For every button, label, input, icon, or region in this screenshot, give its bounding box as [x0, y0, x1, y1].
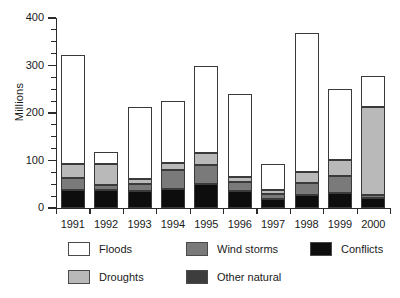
x-tick	[89, 208, 90, 214]
stacked-bar-chart: Millions 0100200300400 19911992199319941…	[0, 0, 400, 298]
y-tick-label-400: 400	[0, 12, 44, 23]
bar-1992	[94, 152, 118, 208]
legend-item-other-natural[interactable]: Other natural	[186, 270, 281, 284]
legend-swatch-other-natural	[186, 270, 208, 284]
x-tick-label-1991: 1991	[56, 218, 89, 230]
bar-1995	[194, 66, 218, 209]
x-tick-label-1996: 1996	[223, 218, 256, 230]
bar-segment-1992-droughts	[94, 164, 118, 185]
x-tick-label-1995: 1995	[190, 218, 223, 230]
x-tick-label-1993: 1993	[123, 218, 156, 230]
x-tick	[56, 208, 57, 214]
bar-segment-1993-wind-storms	[128, 184, 152, 191]
y-minor-tick	[51, 101, 56, 102]
x-tick	[256, 208, 257, 214]
y-minor-tick	[51, 89, 56, 90]
bar-segment-1995-wind-storms	[194, 165, 218, 184]
y-minor-tick	[51, 53, 56, 54]
bar-segment-1992-floods	[94, 152, 118, 164]
bar-segment-1994-wind-storms	[161, 170, 185, 189]
legend-swatch-wind-storms	[186, 242, 208, 256]
bar-1993	[128, 107, 152, 208]
bar-segment-1998-conflicts	[295, 195, 319, 208]
y-minor-tick	[51, 184, 56, 185]
y-tick-400	[48, 17, 56, 18]
bar-segment-1999-droughts	[328, 160, 352, 177]
legend-swatch-conflicts	[310, 242, 332, 256]
legend-item-droughts[interactable]: Droughts	[68, 270, 144, 284]
y-minor-tick	[51, 148, 56, 149]
y-tick-300	[48, 65, 56, 66]
legend-label: Floods	[99, 243, 132, 255]
bar-segment-1997-floods	[261, 164, 285, 190]
bar-segment-1991-floods	[61, 55, 85, 164]
bar-segment-1999-floods	[328, 89, 352, 159]
bar-segment-2000-floods	[361, 76, 385, 107]
bar-segment-1993-conflicts	[128, 191, 152, 208]
x-tick	[156, 208, 157, 214]
x-tick	[223, 208, 224, 214]
bar-segment-1994-droughts	[161, 163, 185, 170]
bar-segment-2000-droughts	[361, 107, 385, 195]
y-tick-label-0: 0	[0, 202, 44, 213]
legend-label: Wind storms	[217, 243, 278, 255]
legend-item-floods[interactable]: Floods	[68, 242, 132, 256]
y-minor-tick	[51, 172, 56, 173]
x-tick-label-2000: 2000	[357, 218, 390, 230]
x-tick	[290, 208, 291, 214]
x-tick-label-1994: 1994	[156, 218, 189, 230]
bar-1997	[261, 164, 285, 208]
legend-item-conflicts[interactable]: Conflicts	[310, 242, 383, 256]
bar-1996	[228, 94, 252, 208]
bar-segment-1998-floods	[295, 33, 319, 172]
bar-segment-2000-conflicts	[361, 198, 385, 208]
y-tick-label-300: 300	[0, 60, 44, 71]
y-tick-label-100: 100	[0, 155, 44, 166]
bar-segment-1997-conflicts	[261, 199, 285, 208]
y-minor-tick	[51, 29, 56, 30]
bar-2000	[361, 76, 385, 208]
chart-legend: FloodsWind stormsConflictsDroughtsOther …	[0, 240, 400, 298]
x-tick	[357, 208, 358, 214]
legend-label: Conflicts	[341, 243, 383, 255]
legend-swatch-floods	[68, 242, 90, 256]
bar-segment-1991-wind-storms	[61, 178, 85, 190]
bar-1998	[295, 33, 319, 208]
x-tick	[190, 208, 191, 214]
y-minor-tick	[51, 136, 56, 137]
bar-segment-1991-droughts	[61, 164, 85, 178]
y-minor-tick	[51, 196, 56, 197]
y-tick-200	[48, 112, 56, 113]
bar-segment-1993-floods	[128, 107, 152, 179]
bar-segment-1999-wind-storms	[328, 176, 352, 193]
bar-segment-1994-conflicts	[161, 189, 185, 208]
bar-segment-1995-droughts	[194, 153, 218, 165]
y-minor-tick	[51, 77, 56, 78]
y-axis-title: Millions	[13, 57, 25, 147]
x-tick	[123, 208, 124, 214]
bar-segment-1995-floods	[194, 66, 218, 154]
bar-segment-1996-conflicts	[228, 191, 252, 208]
legend-label: Droughts	[99, 271, 144, 283]
y-tick-label-200: 200	[0, 107, 44, 118]
bar-segment-1998-wind-storms	[295, 183, 319, 195]
x-tick-label-1999: 1999	[323, 218, 356, 230]
legend-swatch-droughts	[68, 270, 90, 284]
bar-1991	[61, 55, 85, 208]
x-tick	[323, 208, 324, 214]
bar-segment-1996-floods	[228, 94, 252, 177]
x-tick-label-1998: 1998	[290, 218, 323, 230]
legend-label: Other natural	[217, 271, 281, 283]
bar-segment-1999-conflicts	[328, 193, 352, 208]
bar-segment-1991-conflicts	[61, 190, 85, 208]
bar-1999	[328, 89, 352, 208]
bar-segment-1995-conflicts	[194, 184, 218, 208]
y-tick-100	[48, 160, 56, 161]
x-tick	[390, 208, 391, 214]
bar-1994	[161, 101, 185, 208]
legend-item-wind-storms[interactable]: Wind storms	[186, 242, 278, 256]
y-minor-tick	[51, 41, 56, 42]
bar-segment-1994-floods	[161, 101, 185, 163]
y-tick-0	[48, 207, 56, 208]
bar-segment-1996-wind-storms	[228, 182, 252, 192]
